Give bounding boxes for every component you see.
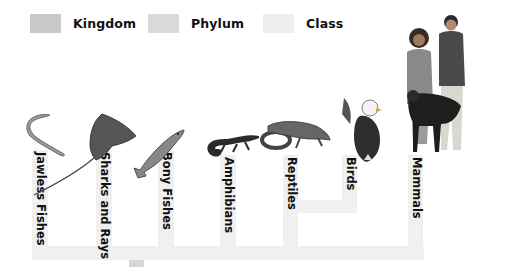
legend-label: Class (306, 16, 343, 31)
legend-label: Phylum (191, 16, 244, 31)
legend-class: Class (263, 13, 343, 33)
root-stub (129, 260, 144, 267)
class-label-amphibians: Amphibians (222, 157, 236, 233)
trunk (32, 246, 424, 260)
legend-label: Kingdom (73, 16, 136, 31)
reptiles-illustration (260, 118, 332, 154)
phylum-swatch (148, 14, 179, 33)
bald-eagle-illustration (336, 94, 390, 166)
class-label-mammals: Mammals (410, 157, 424, 219)
legend-kingdom: Kingdom (30, 13, 136, 33)
people-and-dog-illustration (405, 12, 471, 160)
kingdom-swatch (30, 14, 61, 33)
legend-phylum: Phylum (148, 13, 244, 33)
class-swatch (263, 14, 294, 33)
stingray-illustration (30, 112, 140, 197)
class-label-reptiles: Reptiles (285, 157, 299, 210)
salamander-illustration (203, 130, 261, 162)
trout-illustration (132, 126, 188, 182)
